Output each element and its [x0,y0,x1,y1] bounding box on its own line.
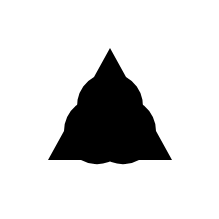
kanizsa-triangle-figure [0,0,219,219]
